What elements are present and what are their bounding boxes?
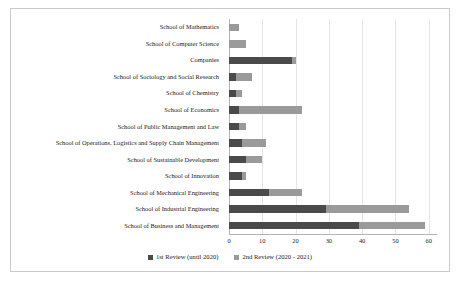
bar-row xyxy=(229,222,437,230)
legend-swatch-icon xyxy=(234,255,239,260)
category-label: School of Public Management and Law xyxy=(118,123,219,131)
bar-segment xyxy=(236,73,253,81)
category-label: School of Innovation xyxy=(165,172,219,180)
bar-row xyxy=(229,189,437,197)
category-label: School of Chemistry xyxy=(166,89,219,97)
bar-row xyxy=(229,123,437,131)
bar-segment xyxy=(242,172,245,180)
bar-row xyxy=(229,139,437,147)
bar-segment xyxy=(229,90,236,98)
x-tick-label: 50 xyxy=(392,236,398,245)
bar-segment xyxy=(229,24,239,32)
bar-segment xyxy=(239,123,246,131)
category-axis-labels: School of MathematicsSchool of Computer … xyxy=(15,19,225,234)
category-label: School of Computer Science xyxy=(146,40,219,48)
chart-legend: 1st Review (until 2020)2nd Review (2020 … xyxy=(11,253,449,261)
bar-segment xyxy=(269,189,302,197)
bar-row xyxy=(229,40,437,48)
bar-segment xyxy=(229,222,359,230)
legend-entry: 1st Review (until 2020) xyxy=(148,253,218,261)
bar-segment xyxy=(229,106,239,114)
bar-row xyxy=(229,24,437,32)
bar-segment xyxy=(229,73,236,81)
legend-label: 2nd Review (2020 - 2021) xyxy=(242,253,312,261)
bar-segment xyxy=(229,40,246,48)
x-tick-label: 10 xyxy=(259,236,265,245)
bar-row xyxy=(229,73,437,81)
x-axis-line xyxy=(229,234,437,235)
bar-segment xyxy=(246,156,263,164)
bar-segment xyxy=(229,139,242,147)
bar-row xyxy=(229,106,437,114)
category-label: School of Economics xyxy=(164,106,219,114)
chart-frame: School of MathematicsSchool of Computer … xyxy=(10,8,450,272)
bar-segment xyxy=(229,156,246,164)
bar-segment xyxy=(292,57,295,65)
category-label: School of Industrial Engineering xyxy=(135,205,219,213)
category-label: School of Operations, Logistics and Supp… xyxy=(56,139,219,147)
bar-row xyxy=(229,205,437,213)
bar-row xyxy=(229,156,437,164)
bar-row xyxy=(229,57,437,65)
legend-entry: 2nd Review (2020 - 2021) xyxy=(234,253,312,261)
bar-segment xyxy=(242,139,265,147)
x-tick-label: 0 xyxy=(227,236,230,245)
bar-segment xyxy=(229,172,242,180)
category-label: School of Mechanical Engineering xyxy=(130,189,219,197)
bar-segment xyxy=(359,222,426,230)
category-label: School of Sociology and Social Research xyxy=(113,73,219,81)
bar-segment xyxy=(229,189,269,197)
bar-segment xyxy=(236,90,243,98)
bar-row xyxy=(229,172,437,180)
legend-swatch-icon xyxy=(148,255,153,260)
x-tick-label: 30 xyxy=(326,236,332,245)
bar-segment xyxy=(239,106,302,114)
bar-segment xyxy=(229,57,292,65)
bar-segment xyxy=(229,123,239,131)
bar-segment xyxy=(326,205,409,213)
plot-area xyxy=(229,19,437,234)
x-tick-label: 40 xyxy=(359,236,365,245)
bars-layer xyxy=(229,19,437,234)
category-label: School of Mathematics xyxy=(160,23,219,31)
x-tick-label: 20 xyxy=(292,236,298,245)
category-label: School of Sustainable Development xyxy=(127,156,219,164)
category-label: Companies xyxy=(190,56,219,64)
legend-label: 1st Review (until 2020) xyxy=(156,253,218,261)
x-axis-tick-labels: 0102030405060 xyxy=(229,236,437,248)
bar-segment xyxy=(229,205,326,213)
bar-row xyxy=(229,90,437,98)
category-label: School of Business and Management xyxy=(124,222,219,230)
x-tick-label: 60 xyxy=(425,236,431,245)
